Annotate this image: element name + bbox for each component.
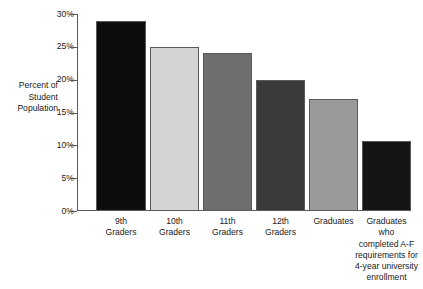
x-axis-category-label: 12thGraders — [254, 216, 308, 239]
y-axis-tick-labels: 0%5%10%15%20%25%30% — [30, 0, 74, 220]
bar — [203, 53, 252, 211]
x-axis-category-label-line: requirements for — [345, 250, 423, 261]
bar — [96, 21, 146, 211]
x-axis-category-label-line: Graders — [254, 227, 308, 238]
bar — [309, 99, 358, 211]
y-axis-tick-label: 20% — [30, 75, 74, 84]
y-axis-tick-mark — [70, 145, 77, 146]
y-axis-tick-mark — [70, 211, 77, 212]
y-axis-tick-label: 30% — [30, 10, 74, 19]
x-axis-category-label-line: enrollment — [345, 272, 423, 283]
x-axis-category-label-line: who — [345, 227, 423, 238]
y-axis-tick-mark — [70, 47, 77, 48]
x-axis-category-label: 10thGraders — [148, 216, 202, 239]
x-axis-category-label-line: Graduates — [345, 216, 423, 227]
x-axis-category-label-line: 9th — [94, 216, 148, 227]
x-axis-category-label-line: Graders — [94, 227, 148, 238]
bar — [362, 141, 411, 211]
y-axis-tick-label: 15% — [30, 108, 74, 117]
x-axis-category-label-line: completed A-F — [345, 239, 423, 250]
bar — [256, 80, 305, 211]
y-axis-tick-mark — [70, 113, 77, 114]
x-axis-category-label-line: 10th — [148, 216, 202, 227]
y-axis-tick-mark — [70, 14, 77, 15]
x-axis-category-label-line: 11th — [201, 216, 255, 227]
plot-area — [77, 14, 378, 211]
y-axis-tick-label: 10% — [30, 141, 74, 150]
y-axis-tick-label: 5% — [30, 174, 74, 183]
x-axis-category-label: Graduateswhocompleted A-Frequirements fo… — [345, 216, 423, 284]
x-axis-category-label-line: 12th — [254, 216, 308, 227]
x-axis-category-label-line: Graders — [201, 227, 255, 238]
y-axis-tick-label: 25% — [30, 42, 74, 51]
x-axis-category-label-line: Graders — [148, 227, 202, 238]
x-axis-category-label-line: 4-year university — [345, 261, 423, 272]
y-axis-tick-mark — [70, 80, 77, 81]
bar — [150, 47, 199, 211]
x-axis-category-labels: 9thGraders10thGraders11thGraders12thGrad… — [77, 216, 394, 289]
x-axis-category-label: 11thGraders — [201, 216, 255, 239]
x-axis-category-label: 9thGraders — [94, 216, 148, 239]
y-axis-tick-label: 0% — [30, 207, 74, 216]
y-axis-tick-mark — [70, 178, 77, 179]
